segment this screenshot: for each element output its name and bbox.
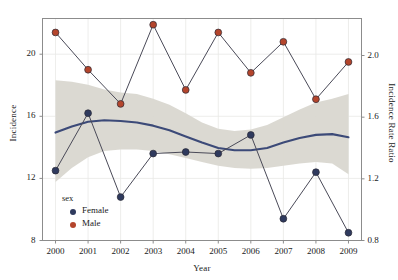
x-tick-label: 2008 <box>299 246 333 256</box>
y-tick-label-right: 1.6 <box>368 111 394 121</box>
legend-title: sex <box>62 193 73 203</box>
legend-label-male: Male <box>82 218 101 228</box>
x-tick-label: 2006 <box>234 246 268 256</box>
confidence-band <box>56 80 349 182</box>
x-tick-label: 2002 <box>104 246 138 256</box>
y-tick-label-left: 20 <box>10 48 36 58</box>
x-tick-label: 2003 <box>136 246 170 256</box>
y-tick-label-left: 16 <box>10 110 36 120</box>
x-axis-title: Year <box>42 263 362 273</box>
legend-label-female: Female <box>82 205 109 215</box>
x-tick-label: 2000 <box>39 246 73 256</box>
x-tick-label: 2004 <box>169 246 203 256</box>
x-tick-label: 2009 <box>331 246 365 256</box>
x-tick-label: 2005 <box>201 246 235 256</box>
y-axis-right-title: Incidence Rate Ratio <box>387 78 397 168</box>
chart-figure: Incidence Incidence Rate Ratio Year 8121… <box>0 0 398 280</box>
y-tick-label-right: 2.0 <box>368 50 394 60</box>
x-tick-label: 2001 <box>71 246 105 256</box>
plot-area <box>0 0 398 280</box>
y-tick-label-right: 0.8 <box>368 235 394 245</box>
y-tick-label-left: 12 <box>10 172 36 182</box>
legend-marker-male <box>70 222 76 228</box>
x-tick-label: 2007 <box>266 246 300 256</box>
legend-marker-female <box>70 209 76 215</box>
y-tick-label-right: 1.2 <box>368 173 394 183</box>
y-tick-label-left: 8 <box>10 235 36 245</box>
y-axis-left-title: Incidence <box>8 88 18 158</box>
